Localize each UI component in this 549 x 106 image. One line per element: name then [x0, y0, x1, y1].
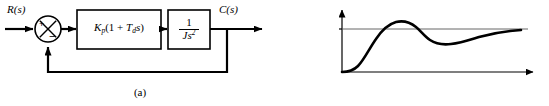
plant-block-denominator: Js2: [170, 30, 208, 41]
input-signal-label: R(s): [7, 4, 25, 15]
control-system-figure: R(s) C(s) + − Kp(1 + Tds) 1 Js2 (a): [0, 0, 549, 106]
step-response-svg: [280, 0, 549, 106]
output-signal-label: C(s): [219, 4, 238, 15]
controller-block-expression: Kp(1 + Tds): [81, 22, 157, 35]
summing-junction-minus-sign: −: [49, 31, 55, 42]
plant-laplace-exponent: 2: [192, 29, 196, 37]
panel-a-caption: (a): [105, 86, 175, 98]
plant-block-numerator: 1: [170, 17, 208, 28]
controller-close-paren: ): [140, 21, 144, 33]
step-response-panel: c(t) 1 0 t (b): [280, 0, 549, 106]
summing-junction-plus-sign: +: [39, 20, 44, 29]
controller-open-paren: (1 +: [105, 21, 126, 33]
block-diagram-panel: R(s) C(s) + − Kp(1 + Tds) 1 Js2 (a): [0, 0, 280, 106]
